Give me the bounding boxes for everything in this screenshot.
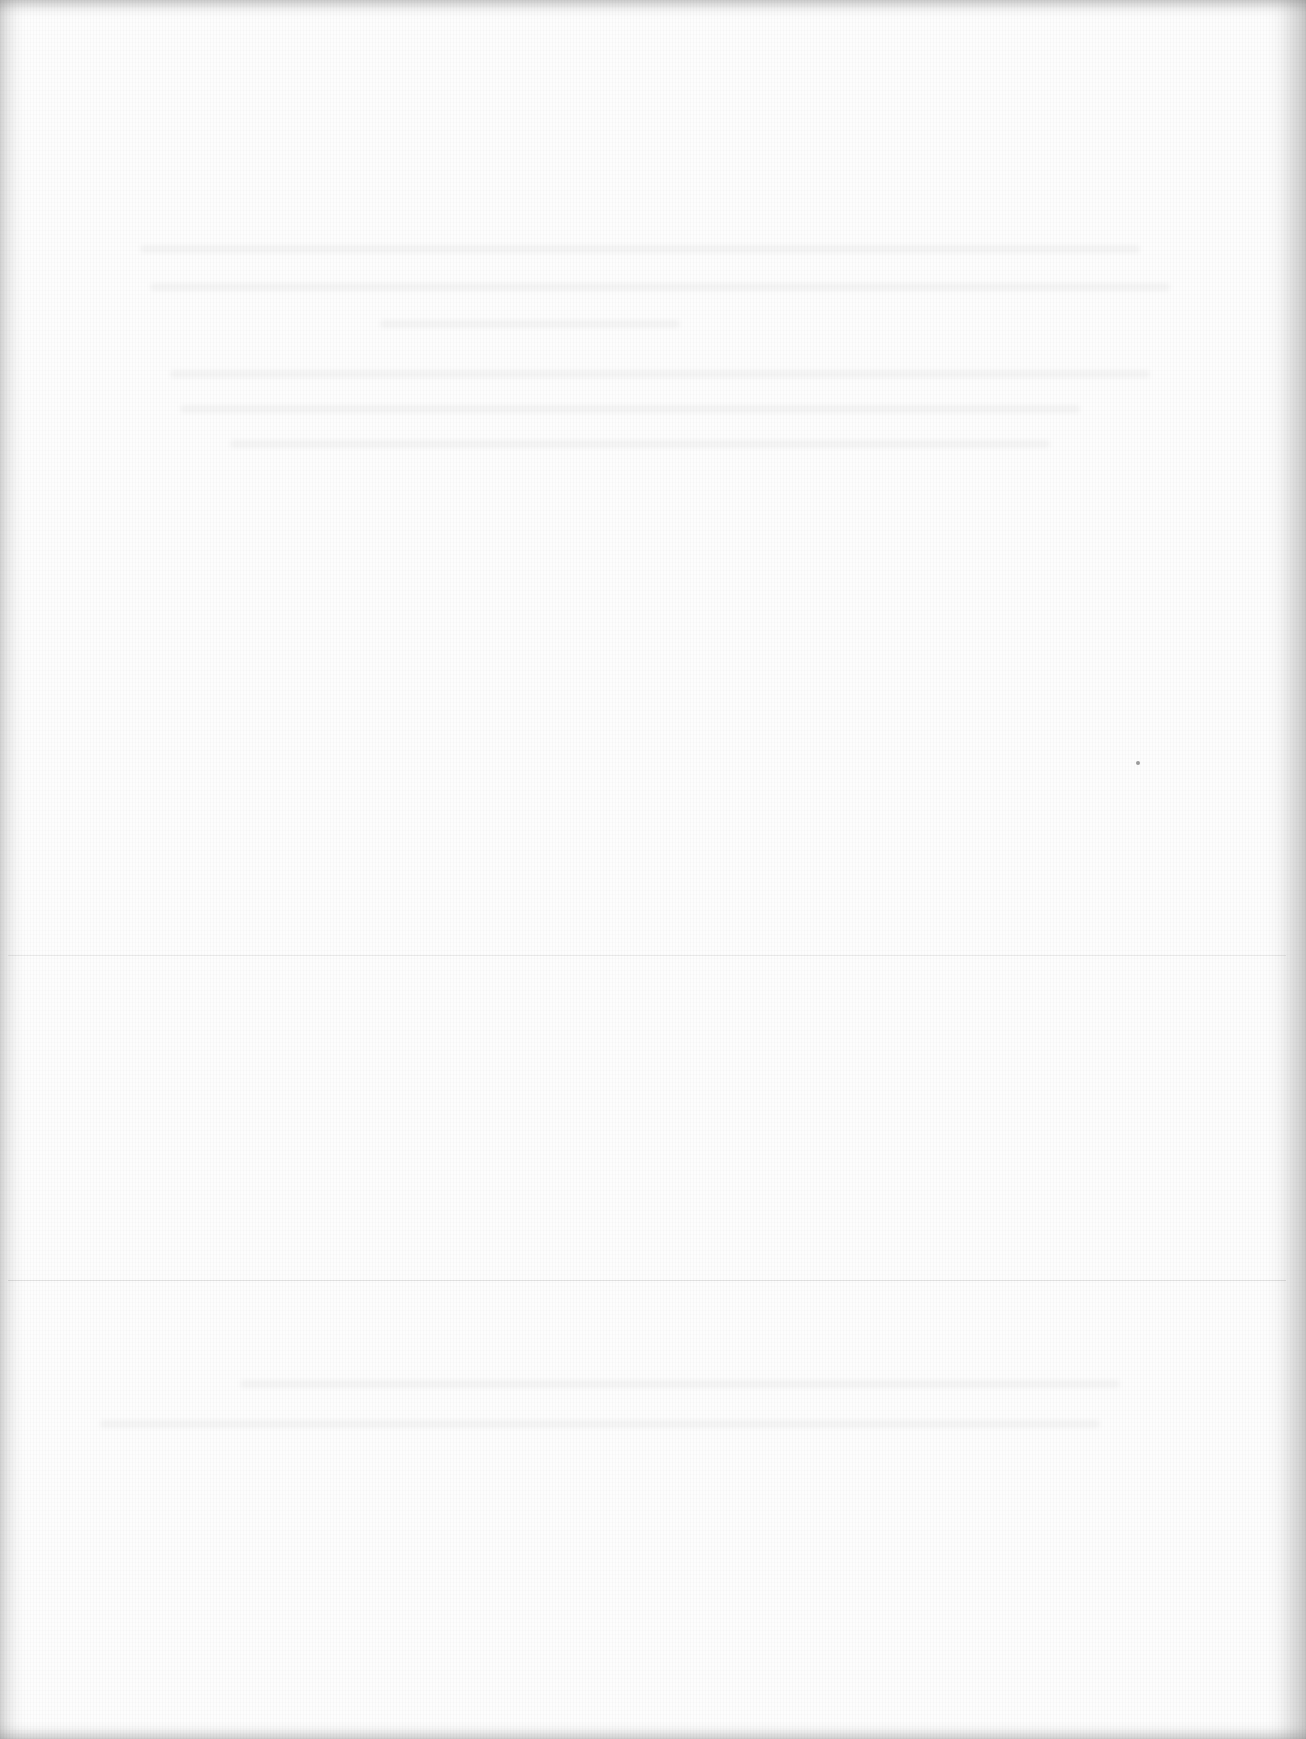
bleed-through-line	[180, 405, 1080, 413]
bleed-through-line	[230, 440, 1050, 448]
bleed-through-line	[100, 1420, 1100, 1428]
bleed-through-line	[170, 370, 1150, 378]
bleed-through-line	[150, 283, 1170, 291]
paper-grain	[0, 0, 1306, 1739]
bleed-through-line	[140, 245, 1140, 253]
scan-edge-shadow	[0, 0, 1306, 1739]
horizontal-rule	[8, 955, 1286, 956]
bleed-through-line	[240, 1380, 1120, 1388]
bleed-through-line	[380, 320, 680, 328]
dust-speck	[1136, 761, 1140, 765]
horizontal-rule	[8, 1280, 1286, 1281]
scanned-page	[0, 0, 1306, 1739]
